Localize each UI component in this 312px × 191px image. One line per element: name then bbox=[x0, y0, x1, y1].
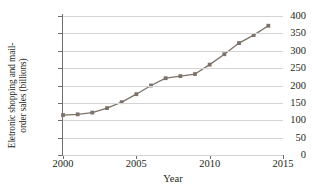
data-point bbox=[164, 76, 168, 80]
y-axis-title-line-2: order sales (billions) bbox=[18, 43, 29, 148]
x-tick-label: 2010 bbox=[187, 159, 233, 170]
grid-line-y bbox=[63, 16, 283, 17]
x-tick-label: 2000 bbox=[40, 159, 86, 170]
data-point bbox=[61, 113, 65, 117]
data-point bbox=[134, 92, 138, 96]
grid-line-y bbox=[63, 155, 283, 156]
data-point bbox=[222, 52, 226, 56]
grid-line-y bbox=[63, 33, 283, 34]
data-point bbox=[208, 63, 212, 67]
x-axis-title: Year bbox=[63, 173, 283, 184]
data-point bbox=[193, 72, 197, 76]
grid-line-y bbox=[63, 51, 283, 52]
y-axis-title-line-1: Eletronic shopping and mail- bbox=[7, 43, 18, 148]
data-point bbox=[237, 41, 241, 45]
y-axis-title: Eletronic shopping and mail- order sales… bbox=[0, 0, 36, 191]
grid-line-y bbox=[63, 86, 283, 87]
grid-line-y bbox=[63, 120, 283, 121]
grid-line-y bbox=[63, 68, 283, 69]
x-tick-label: 2005 bbox=[113, 159, 159, 170]
series-polyline bbox=[63, 26, 268, 115]
plot-area bbox=[63, 16, 283, 155]
line-chart: Eletronic shopping and mail- order sales… bbox=[0, 0, 312, 191]
data-point bbox=[178, 74, 182, 78]
x-tick-label: 2015 bbox=[260, 159, 306, 170]
data-point bbox=[90, 111, 94, 115]
data-point bbox=[266, 24, 270, 28]
data-point bbox=[105, 106, 109, 110]
grid-line-y bbox=[63, 103, 283, 104]
data-point bbox=[76, 112, 80, 116]
grid-line-y bbox=[63, 138, 283, 139]
